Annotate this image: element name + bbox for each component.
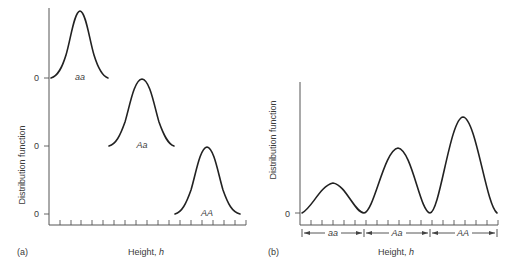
panel-a-zero-label-3: 0 [34,209,39,219]
panel-b: 0 aa Aa AA Distribution func [268,82,498,257]
curve-AA [175,147,240,214]
combined-curve [302,117,497,213]
panel-a-y-label: Distribution function [17,125,27,204]
panel-b-zero-label: 0 [285,209,290,219]
curve-label-Aa: Aa [135,140,147,150]
panel-b-x-ticks [311,220,498,225]
curve-label-aa: aa [75,72,85,82]
curve-label-AA: AA [200,208,213,218]
panel-a-tag: (a) [17,247,28,257]
panel-a-x-label: Height, h [128,247,164,257]
panel-a-zero-label-1: 0 [34,73,39,83]
curve-Aa [109,79,174,146]
panel-a-x-ticks [60,220,246,225]
range-label-aa: aa [328,228,338,238]
panel-b-y-label: Distribution function [268,100,278,179]
panel-b-tag: (b) [268,247,279,257]
range-label-AA: AA [456,228,469,238]
curve-aa [51,11,108,78]
panel-b-x-label: Height, h [378,247,414,257]
panel-a: 0 0 0 aa Aa AA Distribution function Hei… [17,8,246,257]
range-label-Aa: Aa [390,228,402,238]
figure: 0 0 0 aa Aa AA Distribution function Hei… [0,0,515,273]
panel-a-zero-label-2: 0 [34,141,39,151]
